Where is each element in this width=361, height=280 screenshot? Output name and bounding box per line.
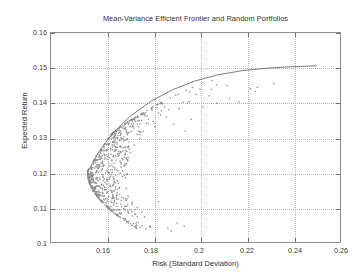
scatter-point	[126, 151, 127, 152]
scatter-point	[128, 141, 129, 142]
scatter-point	[115, 147, 116, 148]
scatter-point	[103, 177, 104, 178]
scatter-point	[116, 196, 117, 197]
scatter-point	[87, 173, 88, 174]
scatter-point	[131, 211, 132, 212]
scatter-points	[87, 80, 274, 232]
scatter-point	[104, 204, 105, 205]
scatter-point	[100, 166, 101, 167]
scatter-point	[120, 140, 121, 141]
scatter-point	[102, 196, 103, 197]
scatter-point	[113, 178, 114, 179]
scatter-point	[116, 195, 117, 196]
scatter-point	[121, 163, 122, 164]
scatter-point	[120, 203, 121, 204]
scatter-point	[185, 90, 186, 91]
scatter-point	[123, 147, 124, 148]
scatter-point	[105, 172, 106, 173]
scatter-point	[138, 126, 139, 127]
scatter-point	[156, 107, 157, 108]
scatter-point	[95, 191, 96, 192]
scatter-point	[117, 180, 118, 181]
scatter-point	[95, 178, 96, 179]
scatter-point	[104, 179, 105, 180]
scatter-point	[126, 188, 127, 189]
scatter-point	[105, 198, 106, 199]
scatter-point	[91, 179, 92, 180]
scatter-point	[114, 136, 115, 137]
scatter-point	[106, 154, 107, 155]
scatter-point	[104, 154, 105, 155]
scatter-point	[127, 203, 128, 204]
scatter-point	[101, 158, 102, 159]
scatter-point	[148, 123, 149, 124]
scatter-point	[129, 209, 130, 210]
scatter-point	[102, 193, 103, 194]
scatter-point	[98, 191, 99, 192]
scatter-point	[112, 137, 113, 138]
scatter-point	[131, 131, 132, 132]
scatter-point	[101, 188, 102, 189]
scatter-point	[97, 177, 98, 178]
scatter-point	[130, 120, 131, 121]
scatter-point	[113, 145, 114, 146]
scatter-point	[118, 151, 119, 152]
scatter-point	[110, 149, 111, 150]
scatter-point	[109, 177, 110, 178]
scatter-point	[128, 222, 129, 223]
scatter-point	[166, 117, 167, 118]
scatter-point	[123, 208, 124, 209]
scatter-point	[216, 84, 217, 85]
scatter-point	[132, 202, 133, 203]
scatter-point	[103, 185, 104, 186]
scatter-point	[122, 151, 123, 152]
scatter-point	[229, 98, 230, 99]
x-tick-label-0.16: 0.16	[96, 246, 110, 255]
y-tick-label-0.12: 0.12	[33, 169, 47, 178]
scatter-point	[90, 183, 91, 184]
scatter-point	[145, 228, 146, 229]
scatter-point	[118, 155, 119, 156]
scatter-point	[125, 128, 126, 129]
scatter-point	[125, 198, 126, 199]
scatter-point	[116, 142, 117, 143]
scatter-point	[92, 176, 93, 177]
scatter-point	[92, 182, 93, 183]
y-tick-label-0.1: 0.1	[37, 239, 47, 248]
scatter-point	[113, 163, 114, 164]
scatter-point	[116, 206, 117, 207]
scatter-point	[117, 154, 118, 155]
scatter-point	[118, 216, 119, 217]
scatter-point	[140, 114, 141, 115]
scatter-point	[119, 153, 120, 154]
scatter-point	[116, 192, 117, 193]
scatter-point	[173, 124, 174, 125]
scatter-point	[146, 110, 147, 111]
scatter-point	[113, 176, 114, 177]
scatter-point	[144, 114, 145, 115]
scatter-point	[126, 205, 127, 206]
scatter-point	[116, 209, 117, 210]
scatter-point	[94, 188, 95, 189]
scatter-point	[183, 226, 184, 227]
y-tick-label-0.15: 0.15	[33, 63, 47, 72]
scatter-point	[90, 173, 91, 174]
scatter-point	[88, 175, 89, 176]
scatter-point	[132, 126, 133, 127]
scatter-point	[123, 198, 124, 199]
scatter-point	[107, 179, 108, 180]
scatter-point	[98, 171, 99, 172]
scatter-point	[152, 110, 153, 111]
scatter-point	[153, 121, 154, 122]
scatter-point	[123, 140, 124, 141]
scatter-point	[89, 182, 90, 183]
scatter-point	[118, 133, 119, 134]
scatter-point	[118, 209, 119, 210]
scatter-point	[139, 227, 140, 228]
scatter-point	[122, 138, 123, 139]
x-tick-label-0.22: 0.22	[240, 246, 254, 255]
scatter-point	[122, 127, 123, 128]
scatter-point	[120, 213, 121, 214]
scatter-point	[143, 113, 144, 114]
scatter-point	[109, 185, 110, 186]
